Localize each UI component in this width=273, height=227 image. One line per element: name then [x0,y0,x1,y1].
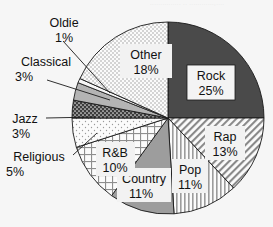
pie-label-religious: Religious 5% [6,150,65,179]
pie-label-classical-value: 3% [15,70,33,84]
pie-label-religious-value: 5% [6,165,24,179]
pie-label-oldie: Oldie 1% [49,16,78,45]
pie-label-rnb-name: R&B [102,146,128,160]
pie-label-rap-name: Rap [214,130,237,144]
pie-label-other-value: 18% [133,63,158,77]
pie-label-classical: Classical 3% [15,55,71,84]
pie-chart-figure: ............... .. ............,.... [0,0,273,227]
pie-label-rap: Rap 13% [205,126,245,160]
pie-label-rock-name: Rock [197,69,226,83]
pie-label-rnb-value: 10% [102,161,127,175]
pie-label-jazz-name: Jazz [12,112,38,126]
pie-label-rap-value: 13% [212,145,237,159]
pie-label-jazz: Jazz 3% [12,112,38,141]
pie-label-other-name: Other [130,48,161,62]
pie-label-rock: Rock 25% [187,65,235,100]
pie-label-other: Other 18% [120,44,172,78]
pie-label-pop: Pop 11% [172,159,208,193]
pie-label-pop-value: 11% [178,178,202,192]
pie-label-pop-name: Pop [179,163,201,177]
pie-label-oldie-name: Oldie [49,16,78,30]
pie-label-oldie-value: 1% [55,31,73,45]
pie-label-jazz-value: 3% [12,127,30,141]
pie-label-classical-name: Classical [21,55,71,69]
pie-label-rock-value: 25% [198,84,223,98]
pie-label-rnb: R&B 10% [96,142,135,176]
pie-label-religious-name: Religious [13,150,64,164]
pie-chart-svg: Oldie 1% Classical 3% Jazz 3% Religious … [0,0,273,227]
pie-label-country-value: 11% [129,187,153,201]
